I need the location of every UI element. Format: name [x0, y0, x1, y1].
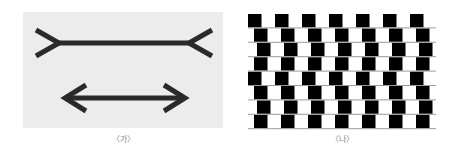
- black-tile: [275, 14, 289, 27]
- black-tile: [335, 115, 349, 128]
- black-tile: [254, 86, 268, 99]
- black-tile: [419, 43, 433, 56]
- black-tile: [257, 43, 271, 56]
- black-tile: [335, 57, 349, 70]
- black-tile: [308, 115, 322, 128]
- black-tile: [248, 72, 262, 85]
- black-tile: [254, 28, 268, 41]
- black-tile: [311, 43, 325, 56]
- black-tile: [281, 57, 295, 70]
- black-tile: [416, 57, 430, 70]
- black-tile: [335, 86, 349, 99]
- black-tile: [281, 86, 295, 99]
- black-tile: [416, 28, 430, 41]
- black-tile: [356, 14, 370, 27]
- black-tile: [302, 14, 316, 27]
- black-tile: [311, 100, 325, 113]
- black-tile: [389, 115, 403, 128]
- cafe-wall-figure: [248, 14, 438, 130]
- black-tile: [416, 115, 430, 128]
- black-tile: [383, 72, 397, 85]
- black-tile: [254, 57, 268, 70]
- black-tile: [338, 100, 352, 113]
- black-tile: [362, 28, 376, 41]
- black-tile: [365, 43, 379, 56]
- figure-caption-ga: 〈가〉: [103, 133, 143, 144]
- black-tile: [335, 28, 349, 41]
- black-tile: [392, 100, 406, 113]
- black-tile: [416, 86, 430, 99]
- black-tile: [329, 14, 343, 27]
- top-left-fin: [36, 30, 59, 56]
- black-tile: [257, 100, 271, 113]
- black-tile: [389, 28, 403, 41]
- black-tile: [248, 14, 262, 27]
- black-tile: [362, 57, 376, 70]
- black-tile: [362, 86, 376, 99]
- black-tile: [254, 115, 268, 128]
- cafe-wall-illusion-graphic: [248, 14, 438, 130]
- black-tile: [356, 72, 370, 85]
- black-tile: [281, 28, 295, 41]
- black-tile: [365, 100, 379, 113]
- black-tile: [284, 100, 298, 113]
- black-tile: [410, 14, 424, 27]
- muller-lyer-figure: [23, 12, 223, 128]
- black-tile: [275, 72, 289, 85]
- muller-lyer-illusion-graphic: [23, 12, 223, 128]
- black-tile: [419, 100, 433, 113]
- black-tile: [410, 72, 424, 85]
- figure-caption-na: 〈나〉: [322, 133, 362, 144]
- black-tile: [329, 72, 343, 85]
- black-tile: [308, 28, 322, 41]
- black-tile: [362, 115, 376, 128]
- black-tile: [389, 86, 403, 99]
- top-right-fin: [189, 30, 212, 56]
- black-tile: [338, 43, 352, 56]
- black-tile: [284, 43, 298, 56]
- black-tile: [281, 115, 295, 128]
- black-tile: [389, 57, 403, 70]
- black-tile: [302, 72, 316, 85]
- black-tile: [308, 57, 322, 70]
- black-tile: [308, 86, 322, 99]
- black-tile: [383, 14, 397, 27]
- black-tile: [392, 43, 406, 56]
